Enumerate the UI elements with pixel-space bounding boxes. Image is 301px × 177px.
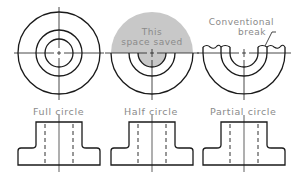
partial-circle-top-view — [197, 32, 291, 100]
space-saved-line1: This — [121, 27, 183, 37]
space-saved-note: This space saved — [121, 27, 183, 47]
half-circle-front-view — [111, 115, 193, 172]
partial-circle-front-view — [203, 115, 285, 172]
half-circle-top-view — [105, 12, 199, 100]
break-line2: break — [192, 27, 274, 37]
label-half-circle: Half circle — [124, 107, 178, 117]
label-full-circle: Full circle — [33, 107, 84, 117]
conventional-break-lines — [203, 45, 285, 48]
full-circle-top-view — [14, 7, 104, 100]
break-line1: Conventional — [192, 17, 274, 27]
space-saved-line2: space saved — [121, 37, 183, 47]
centerlines — [14, 7, 104, 100]
conventional-break-note: Conventional break — [192, 17, 274, 37]
full-circle-front-view — [18, 115, 100, 172]
label-partial-circle: Partial circle — [210, 107, 277, 117]
